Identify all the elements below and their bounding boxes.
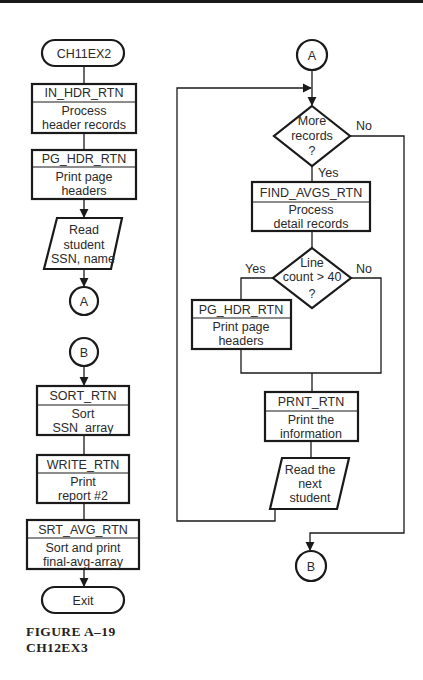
- process-name: PG_HDR_RTN: [42, 152, 127, 166]
- process-text: Sort and print: [45, 541, 121, 555]
- process-text: detail records: [273, 217, 348, 231]
- decision-text: Line: [300, 256, 324, 270]
- srt-avg-rtn-process: SRT_AVG_RTN Sort and print final-avg-arr…: [27, 520, 139, 569]
- io-text: Read the: [285, 463, 336, 477]
- process-name: FIND_AVGS_RTN: [260, 186, 362, 200]
- decision-text: More: [298, 114, 327, 128]
- process-text: Print page: [213, 320, 270, 334]
- process-text: headers: [61, 184, 106, 198]
- process-name: WRITE_RTN: [47, 458, 120, 472]
- connector-label: B: [307, 560, 315, 574]
- io-text: SSN, name: [51, 252, 115, 266]
- decision-more-records: More records ?: [274, 106, 350, 166]
- write-rtn-process: WRITE_RTN Print report #2: [37, 455, 129, 503]
- process-text: Sort: [72, 407, 95, 421]
- branch-label-yes: Yes: [245, 262, 265, 276]
- sort-rtn-process: SORT_RTN Sort SSN_array: [37, 386, 129, 435]
- connector-b-in: B: [70, 338, 98, 366]
- process-text: Process: [288, 203, 333, 217]
- connector-b-out: B: [296, 551, 326, 581]
- process-name: PRNT_RTN: [278, 395, 344, 409]
- terminal-label: Exit: [73, 594, 94, 608]
- process-text: headers: [218, 334, 263, 348]
- decision-text: ?: [309, 287, 316, 301]
- process-text: Print page: [56, 170, 113, 184]
- branch-label-yes: Yes: [318, 166, 338, 180]
- process-name: IN_HDR_RTN: [45, 86, 124, 100]
- process-text: report #2: [58, 489, 108, 503]
- exit-terminal: Exit: [42, 587, 124, 613]
- in-hdr-rtn-process: IN_HDR_RTN Process header records: [32, 84, 136, 133]
- process-name: SORT_RTN: [50, 389, 117, 403]
- branch-label-no: No: [356, 262, 372, 276]
- pg-hdr-rtn-process-inner: PG_HDR_RTN Print page headers: [192, 300, 291, 349]
- pg-hdr-rtn-process: PG_HDR_RTN Print page headers: [32, 150, 136, 199]
- io-text: student: [289, 491, 331, 505]
- process-text: Print: [70, 475, 96, 489]
- process-text: final-avg-array: [43, 555, 124, 569]
- connector-label: A: [80, 295, 89, 309]
- connector-a-out: A: [70, 287, 98, 315]
- decision-text: ?: [309, 144, 316, 158]
- process-text: header records: [42, 118, 126, 132]
- decision-text: records: [291, 129, 333, 143]
- yes-branch-line: [241, 278, 273, 300]
- io-text: Read: [69, 223, 99, 237]
- process-text: Print the: [288, 413, 335, 427]
- terminal-label: CH11EX2: [57, 47, 112, 61]
- process-name: PG_HDR_RTN: [199, 303, 284, 317]
- process-name: SRT_AVG_RTN: [38, 523, 128, 537]
- start-terminal: CH11EX2: [42, 40, 124, 66]
- prnt-rtn-process: PRNT_RTN Print the information: [265, 392, 358, 441]
- io-text: student: [63, 238, 105, 252]
- read-student-io: Read student SSN, name: [44, 218, 122, 269]
- process-text: information: [280, 427, 342, 441]
- read-next-student-io: Read the next student: [270, 458, 349, 509]
- process-text: Process: [61, 104, 106, 118]
- connector-label: A: [308, 49, 317, 63]
- process-text: SSN_array: [52, 421, 114, 435]
- connector-label: B: [80, 346, 88, 360]
- find-avgs-rtn-process: FIND_AVGS_RTN Process detail records: [252, 182, 370, 231]
- branch-label-no: No: [356, 119, 372, 133]
- figure-number: FIGURE A–19: [26, 624, 116, 639]
- flowchart: CH11EX2 IN_HDR_RTN Process header record…: [0, 0, 423, 680]
- connector-a-in: A: [297, 40, 327, 70]
- io-text: next: [298, 477, 322, 491]
- figure-title: CH12EX3: [26, 640, 88, 655]
- decision-text: count > 40: [283, 270, 342, 284]
